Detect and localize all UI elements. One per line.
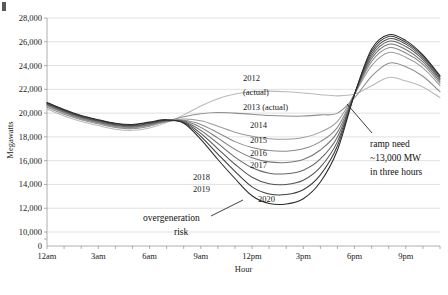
y-tick-label: 28,000 — [19, 13, 42, 23]
y-tick-label: 26,000 — [19, 37, 42, 47]
x-tick-label: 3pm — [296, 251, 312, 261]
x-tick-label: 3am — [91, 251, 106, 261]
series-label: 2018 — [193, 172, 210, 182]
x-tick-label: 9am — [193, 251, 208, 261]
ramp-need-annotation: ramp need — [370, 139, 410, 149]
series-label: (actual) — [243, 87, 269, 97]
y-tick-label: 10,000 — [19, 227, 42, 237]
x-tick-label: 6pm — [347, 251, 363, 261]
y-tick-label: 16,000 — [19, 156, 42, 166]
x-axis-title: Hour — [235, 264, 253, 274]
duck-curve-chart: 10,00012,00014,00016,00018,00020,00022,0… — [0, 0, 448, 295]
series-label: 2012 — [243, 73, 260, 83]
y-tick-label: 14,000 — [19, 179, 42, 189]
y-tick-label: 20,000 — [19, 108, 42, 118]
series-label: 2017 — [250, 160, 267, 170]
y-tick-label: 24,000 — [19, 61, 42, 71]
y-axis-title: Megawatts — [5, 121, 15, 158]
series-label: 2019 — [193, 184, 210, 194]
series-label: 2015 — [250, 135, 267, 145]
y-tick-label: 18,000 — [19, 132, 42, 142]
series-label: 2016 — [250, 148, 267, 158]
chart-canvas: 10,00012,00014,00016,00018,00020,00022,0… — [0, 0, 448, 295]
y-tick-label-zero: 0 — [38, 241, 42, 251]
series-label: 2020 — [258, 194, 275, 204]
overgeneration-risk-annotation: overgeneration — [143, 213, 200, 223]
y-tick-label: 12,000 — [19, 203, 42, 213]
x-tick-label: 6am — [142, 251, 157, 261]
ramp-need-annotation: ~13,000 MW — [370, 153, 421, 163]
y-tick-label: 22,000 — [19, 84, 42, 94]
series-label: 2014 — [250, 120, 268, 130]
ramp-need-leader — [347, 104, 372, 133]
x-tick-label: 12am — [38, 251, 57, 261]
series-line-2015 — [47, 47, 440, 151]
ramp-need-annotation: in three hours — [370, 167, 423, 177]
x-tick-label: 12pm — [242, 251, 262, 261]
overgeneration-risk-annotation: risk — [174, 227, 189, 237]
x-tick-label: 9pm — [398, 251, 414, 261]
series-label: 2013 (actual) — [243, 102, 288, 112]
